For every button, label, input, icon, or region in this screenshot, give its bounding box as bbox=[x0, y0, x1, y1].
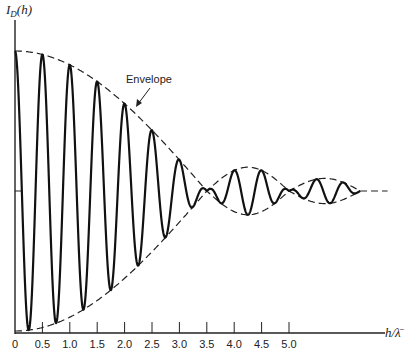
x-tick-label: 3.0 bbox=[172, 338, 187, 350]
x-tick-label: 0.5 bbox=[35, 338, 50, 350]
envelope-curve bbox=[15, 51, 388, 331]
interference-chart: 00.51.01.52.02.53.03.54.04.55.0 ID(h) h/… bbox=[0, 0, 406, 352]
x-tick-label: 2.0 bbox=[117, 338, 132, 350]
signal-curve bbox=[15, 51, 360, 330]
x-tick-label: 1.0 bbox=[62, 338, 77, 350]
x-ticks: 00.51.01.52.02.53.03.54.04.55.0 bbox=[12, 322, 297, 350]
y-axis-label: ID(h) bbox=[5, 2, 32, 19]
x-tick-label: 4.0 bbox=[227, 338, 242, 350]
x-tick-label: 5.0 bbox=[281, 338, 296, 350]
x-axis-label: h/λ̄ bbox=[385, 325, 405, 340]
x-tick-label: 2.5 bbox=[144, 338, 159, 350]
x-tick-label: 3.5 bbox=[199, 338, 214, 350]
x-tick-label: 1.5 bbox=[90, 338, 105, 350]
envelope-annotation: Envelope bbox=[126, 73, 172, 85]
x-tick-label: 4.5 bbox=[254, 338, 269, 350]
x-tick-label: 0 bbox=[12, 338, 18, 350]
